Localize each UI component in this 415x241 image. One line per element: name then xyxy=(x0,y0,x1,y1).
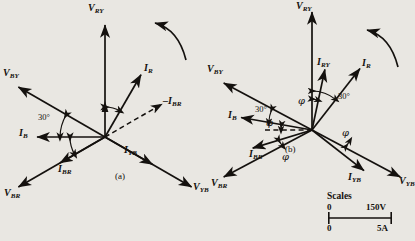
rotation-arrow-b xyxy=(367,30,398,67)
label-b-v-by: VBY xyxy=(207,64,223,76)
label-b-angle-30deg-right: 30° xyxy=(338,92,350,101)
scales-title: Scales xyxy=(327,192,352,202)
scales-voltage-min: 0 xyxy=(327,203,332,212)
vector-b-i-yb xyxy=(312,130,364,171)
arc-a-ib-ibr xyxy=(70,137,75,155)
scales-voltage-max: 150V xyxy=(366,203,386,212)
label-b-v-yb: VYB xyxy=(399,176,415,188)
label-a-v-yb: VYB xyxy=(193,182,209,194)
label-a-neg-i-br: –IBR xyxy=(163,96,181,108)
vector-b-v-br xyxy=(224,130,312,177)
label-b-i-r: IR xyxy=(362,58,371,70)
arc-a-30deg-upper xyxy=(60,115,66,137)
arc-b-vry-ir-30 xyxy=(312,91,336,100)
arc-b-ib-ref-phi xyxy=(281,125,282,130)
label-a-i-b: IB xyxy=(19,128,28,140)
label-a-v-ry: VRY xyxy=(88,3,104,15)
panel-a-caption: (a) xyxy=(115,172,125,181)
label-a-v-br: VBR xyxy=(4,188,20,200)
arc-b-ibr-vbr-phi xyxy=(279,140,284,147)
label-a-angle-30deg: 30° xyxy=(38,113,50,122)
label-b-i-b: IB xyxy=(228,110,237,122)
label-b-v-br: VBR xyxy=(211,178,227,190)
label-a-i-br: IBR xyxy=(58,164,71,176)
label-b-phi-vry-iry: φ xyxy=(298,96,305,106)
label-b-angle-30deg-left: 30° xyxy=(255,105,267,114)
arc-b-vry-iry-phi xyxy=(312,99,318,100)
vector-a-v-by xyxy=(18,87,105,137)
vector-a-i-r xyxy=(105,75,141,137)
panel-a-angle-arcs xyxy=(60,107,120,155)
vector-b-v-yb xyxy=(312,130,400,177)
scales-current-max: 5A xyxy=(377,224,388,233)
label-b-i-yb: IYB xyxy=(348,172,361,184)
label-a-i-yb: IYB xyxy=(124,145,137,157)
panel-b-caption: (b) xyxy=(285,145,296,154)
label-a-i-r: IR xyxy=(144,63,153,75)
scales-current-min: 0 xyxy=(327,224,332,233)
label-b-v-ry: VRY xyxy=(296,1,312,13)
label-b-i-ry: IRY xyxy=(317,57,330,69)
label-b-phi-ib-ref: φ xyxy=(266,118,273,128)
label-a-v-by: VBY xyxy=(3,68,19,80)
label-b-i-br: IBR xyxy=(249,149,262,161)
rotation-arrow-a xyxy=(155,23,186,60)
arc-b-ir-vyb-phi xyxy=(346,141,350,147)
label-b-phi-ir-vyb: φ xyxy=(342,128,349,138)
vector-a-i-br xyxy=(60,137,105,163)
